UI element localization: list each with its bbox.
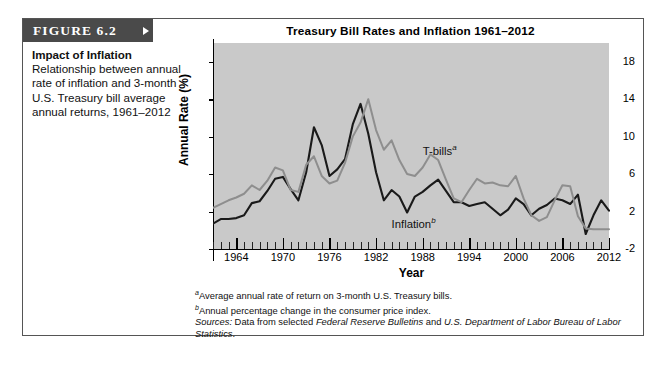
x-tick-label: 1988	[401, 251, 445, 263]
figure-number-badge: FIGURE 6.2	[23, 19, 141, 42]
footnote-b-text: Annual percentage change in the consumer…	[199, 305, 431, 316]
y-tick-label: 6	[609, 167, 635, 179]
series-label-t-bills: T-billsa	[423, 143, 457, 157]
sources-end: .	[233, 328, 236, 339]
figure-number-label: FIGURE 6.2	[33, 23, 117, 39]
y-tick-label: 18	[609, 55, 635, 67]
x-tick-label: 1976	[307, 251, 351, 263]
footnote-a: aAverage annual rate of return on 3-mont…	[195, 287, 635, 302]
footnote-a-text: Average annual rate of return on 3-month…	[199, 290, 452, 301]
sources-mid: and	[423, 316, 444, 327]
figure-caption: Impact of Inflation Relationship between…	[32, 48, 182, 119]
y-axis-title: Annual Rate (%)	[177, 45, 191, 195]
sources-italic-1: Federal Reserve Bulletins	[316, 316, 423, 327]
sources-label: Sources:	[195, 316, 232, 327]
x-tick-label: 1994	[447, 251, 491, 263]
x-tick-label: 1982	[354, 251, 398, 263]
y-tick-label: 10	[609, 130, 635, 142]
series-line-inflation	[213, 104, 609, 234]
x-axis-title: Year	[213, 266, 610, 280]
x-tick-label: 2006	[540, 251, 584, 263]
caption-title: Impact of Inflation	[32, 48, 182, 62]
x-tick-label: 2000	[494, 251, 538, 263]
badge-arrow-icon	[141, 19, 153, 42]
caption-body: Relationship between annual rate of infl…	[32, 62, 182, 119]
figure-footnotes: aAverage annual rate of return on 3-mont…	[195, 287, 635, 340]
figure-card: FIGURE 6.2 Impact of Inflation Relations…	[22, 18, 644, 336]
x-tick-label: 1964	[214, 251, 258, 263]
sources-pre: Data from selected	[232, 316, 316, 327]
chart-title: Treasury Bill Rates and Inflation 1961–2…	[183, 24, 638, 38]
series-label-inflation: Inflationb	[392, 216, 436, 230]
series-line-t-bills	[213, 99, 609, 229]
y-tick-label: 2	[609, 205, 635, 217]
x-tick-label: 2012	[587, 251, 631, 263]
chart-plot: Annual Rate (%) Year -226101418 19641970…	[183, 43, 635, 283]
y-tick-label: 14	[609, 92, 635, 104]
x-tick-label: 1970	[261, 251, 305, 263]
footnote-sources: Sources: Data from selected Federal Rese…	[195, 316, 635, 339]
footnote-b: bAnnual percentage change in the consume…	[195, 302, 635, 317]
